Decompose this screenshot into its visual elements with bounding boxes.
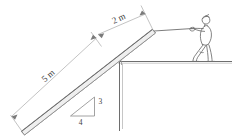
person-front-arm [194,29,204,31]
person-pulling-rope [190,15,215,62]
label-slope-run: 4 [79,118,83,127]
person-torso-front [207,26,211,45]
statics-diagram-figure: 5 m 2 m 3 4 [0,0,236,139]
slope-triangle: 3 4 [71,97,103,127]
dimension-2m: 2 m [98,6,153,39]
person-front-leg-back [207,46,209,62]
ground-line [118,62,232,64]
vertical-wall [120,62,123,132]
person-shoulders [205,26,208,27]
label-slope-rise: 3 [99,97,103,106]
label-5m: 5 m [40,67,57,84]
label-2m: 2 m [110,11,127,26]
diagram-canvas: 5 m 2 m 3 4 [0,0,236,139]
rope [154,29,193,32]
person-front-leg-front [209,45,212,61]
